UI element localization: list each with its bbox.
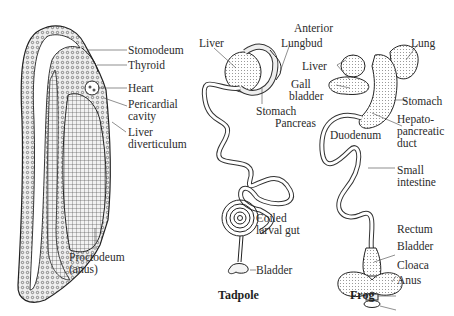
label-hepatopancreatic-line1: Hepato- (397, 113, 434, 125)
label-duodenum: Duodenum (330, 129, 381, 141)
label-cloaca: Cloaca (397, 259, 429, 271)
label-gall-bladder-line1: Gall (291, 78, 311, 90)
label-coiled-gut-line2: larval gut (256, 224, 300, 236)
label-liver-diverticulum-line1: Liver (128, 126, 153, 138)
label-tadpole-liver: Liver (199, 37, 224, 49)
label-stomodeum: Stomodeum (128, 44, 184, 56)
label-frog-stomach: Stomach (402, 95, 442, 107)
caption-frog: Frog (350, 288, 374, 303)
label-thyroid: Thyroid (128, 59, 165, 71)
label-lungbud: Lungbud (281, 37, 323, 49)
label-coiled-gut-line1: Coiled (256, 212, 287, 224)
label-anus: Anus (397, 274, 421, 286)
label-small-intestine-line2: intestine (397, 176, 436, 188)
label-small-intestine-line1: Small (397, 164, 424, 176)
figure-canvas: Stomodeum Thyroid Heart Pericardial cavi… (0, 0, 454, 316)
label-tadpole-bladder: Bladder (256, 264, 292, 276)
label-hepatopancreatic-line3: duct (397, 137, 417, 149)
label-rectum: Rectum (397, 223, 433, 235)
label-liver-diverticulum-line2: diverticulum (128, 138, 187, 150)
label-pericardial-cavity-line2: cavity (128, 110, 156, 122)
label-gall-bladder-line2: bladder (289, 90, 323, 102)
label-frog-bladder: Bladder (397, 240, 433, 252)
label-pericardial-cavity-line1: Pericardial (128, 98, 178, 110)
label-proctodeum-line1: Proctodeum (69, 251, 125, 263)
label-proctodeum-line2: (anus) (69, 263, 98, 275)
label-pancreas: Pancreas (275, 117, 316, 129)
label-lung: Lung (411, 37, 435, 49)
label-heart: Heart (128, 82, 154, 94)
label-anterior: Anterior (294, 22, 333, 34)
caption-tadpole: Tadpole (218, 288, 259, 303)
tadpole-drawing (204, 47, 291, 274)
label-tadpole-stomach: Stomach (256, 105, 296, 117)
label-frog-liver: Liver (302, 60, 327, 72)
label-hepatopancreatic-line2: pancreatic (397, 125, 444, 137)
